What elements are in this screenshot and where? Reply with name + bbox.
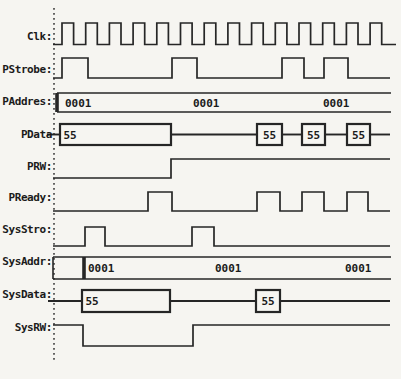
timing-diagram-page: 000100010001555555550001000100015555 Clk… — [0, 0, 401, 379]
bus-value-label: 55 — [261, 295, 274, 308]
signal-label-clk: Clk: — [0, 30, 52, 44]
signal-label-pdata: PData — [0, 128, 52, 142]
bus-value-label: 0001 — [323, 97, 350, 110]
wave-pstrobe — [53, 58, 390, 78]
bus-value-label: 55 — [352, 129, 365, 142]
waveform-canvas: 000100010001555555550001000100015555 — [0, 0, 401, 379]
signal-label-paddres: PAddres: — [0, 95, 52, 109]
signal-label-sysstro: SysStro: — [0, 223, 52, 237]
signal-label-pstrobe: PStrobe: — [0, 63, 52, 77]
wave-prw — [53, 159, 390, 178]
signal-label-sysaddr: SysAddr: — [0, 255, 52, 269]
bus-value-label: 55 — [263, 129, 276, 142]
signal-label-sysrw: SysRW: — [0, 321, 52, 335]
bus-value-label: 0001 — [215, 262, 242, 275]
wave-clk — [53, 23, 396, 45]
bus-value-label: 0001 — [345, 262, 372, 275]
signal-label-prw: PRW: — [0, 160, 52, 174]
bus-value-label: 0001 — [88, 262, 115, 275]
bus-value-label: 55 — [64, 129, 77, 142]
bus-value-label: 55 — [86, 295, 99, 308]
signal-label-sysdata: SysData: — [0, 288, 52, 302]
signal-label-pready: PReady: — [0, 191, 52, 205]
bus-value-label: 0001 — [193, 97, 220, 110]
bus-value-label: 0001 — [65, 97, 92, 110]
bus-value-label: 55 — [307, 129, 320, 142]
wave-sysrw — [53, 325, 390, 346]
wave-sysstro — [53, 227, 390, 246]
wave-pready — [53, 192, 390, 211]
